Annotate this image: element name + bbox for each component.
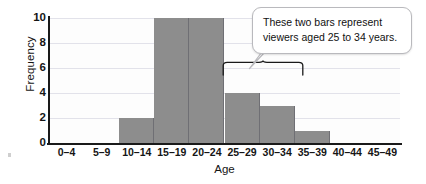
callout-bubble: These two bars represent viewers aged 25… (252, 7, 412, 54)
callout-line-1: These two bars represent (263, 15, 402, 30)
y-axis-tick-labels: 0246810 (22, 0, 46, 184)
bar-10–14 (119, 118, 154, 143)
bar-25–29 (225, 93, 260, 143)
y-tick-0: 0 (24, 137, 46, 149)
y-tick-4: 4 (24, 87, 46, 99)
y-tick-2: 2 (24, 112, 46, 124)
x-tick-30–34: 30–34 (263, 146, 292, 158)
histogram-figure: Frequency 0246810 0–45–910–1415–1920–242… (0, 0, 426, 184)
y-tick-10: 10 (24, 12, 46, 24)
y-axis-line (48, 16, 50, 145)
x-tick-25–29: 25–29 (227, 146, 256, 158)
x-tick-5–9: 5–9 (93, 146, 111, 158)
x-tick-45–49: 45–49 (368, 146, 397, 158)
x-tick-20–24: 20–24 (192, 146, 221, 158)
bar-30–34 (260, 106, 295, 144)
x-tick-35–39: 35–39 (298, 146, 327, 158)
y-tick-6: 6 (24, 62, 46, 74)
x-tick-40–44: 40–44 (333, 146, 362, 158)
bar-20–24 (189, 18, 224, 143)
y-tick-8: 8 (24, 37, 46, 49)
x-axis-title: Age (49, 163, 400, 175)
x-axis-line (47, 143, 402, 145)
scan-speck (8, 153, 11, 157)
bar-15–19 (154, 18, 189, 143)
x-tick-15–19: 15–19 (157, 146, 186, 158)
bar-35–39 (295, 131, 330, 144)
x-tick-10–14: 10–14 (122, 146, 151, 158)
x-axis-tick-labels: 0–45–910–1415–1920–2425–2930–3435–3940–4… (49, 146, 400, 162)
callout-line-2: viewers aged 25 to 34 years. (263, 30, 402, 45)
x-tick-0–4: 0–4 (58, 146, 76, 158)
